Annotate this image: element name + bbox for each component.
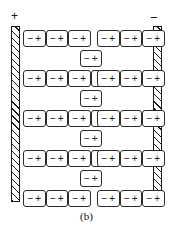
dipole-positive-charge: +	[154, 193, 160, 203]
dipole-cell-r0-left-0: −+	[23, 30, 46, 47]
dipole-positive-charge: +	[80, 153, 86, 163]
dipole-positive-charge: +	[132, 73, 138, 83]
dipole-cell-r3-right-1: −+	[120, 150, 143, 167]
dipole-cell-r0-right-1: −+	[120, 30, 143, 47]
dipole-negative-charge: −	[124, 153, 130, 163]
dipole-cell-r4-right-2: −+	[142, 190, 165, 207]
figure-canvas: + − −+−+−+−+−+−+−+−+−+−+−+−+−+−+−+−+−+−+…	[0, 0, 173, 234]
dipole-positive-charge: +	[92, 93, 98, 103]
dipole-positive-charge: +	[58, 73, 64, 83]
dipole-positive-charge: +	[132, 113, 138, 123]
dipole-positive-charge: +	[35, 193, 41, 203]
dipole-cell-r4-left-0: −+	[23, 190, 46, 207]
dipole-positive-charge: +	[35, 153, 41, 163]
dipole-negative-charge: −	[84, 173, 90, 183]
dipole-negative-charge: −	[27, 73, 33, 83]
dipole-positive-charge: +	[80, 33, 86, 43]
dipole-negative-charge: −	[124, 33, 130, 43]
dipole-negative-charge: −	[101, 193, 107, 203]
dipole-cell-r2-right-2: −+	[142, 110, 165, 127]
dipole-cell-bridge-1: −+	[80, 90, 103, 107]
dipole-cell-r2-left-0: −+	[23, 110, 46, 127]
dipole-negative-charge: −	[124, 193, 130, 203]
dipole-cell-r2-right-0: −+	[97, 110, 120, 127]
dipole-negative-charge: −	[27, 33, 33, 43]
dipole-positive-charge: +	[92, 53, 98, 63]
dipole-cell-r3-left-2: −+	[68, 150, 91, 167]
dipole-positive-charge: +	[58, 113, 64, 123]
dipole-positive-charge: +	[58, 193, 64, 203]
dipole-negative-charge: −	[72, 33, 78, 43]
dipole-positive-charge: +	[35, 113, 41, 123]
dipole-cell-r3-right-0: −+	[97, 150, 120, 167]
dipole-negative-charge: −	[84, 53, 90, 63]
dipole-negative-charge: −	[146, 33, 152, 43]
dipole-cell-r4-right-0: −+	[97, 190, 120, 207]
dipole-positive-charge: +	[154, 153, 160, 163]
dipole-positive-charge: +	[109, 73, 115, 83]
dipole-negative-charge: −	[84, 93, 90, 103]
dipole-cell-r1-left-2: −+	[68, 70, 91, 87]
dipole-positive-charge: +	[35, 33, 41, 43]
dipole-negative-charge: −	[27, 193, 33, 203]
dipole-cell-r0-right-2: −+	[142, 30, 165, 47]
dipole-cell-r4-right-1: −+	[120, 190, 143, 207]
dipole-cell-r2-left-1: −+	[46, 110, 69, 127]
dipole-cell-r2-left-2: −+	[68, 110, 91, 127]
dipole-positive-charge: +	[80, 113, 86, 123]
dipole-cell-bridge-0: −+	[80, 50, 103, 67]
dipole-positive-charge: +	[132, 33, 138, 43]
dipole-positive-charge: +	[154, 113, 160, 123]
dipole-positive-charge: +	[109, 113, 115, 123]
dipole-positive-charge: +	[132, 153, 138, 163]
dipole-positive-charge: +	[80, 193, 86, 203]
dipole-positive-charge: +	[92, 133, 98, 143]
dipole-negative-charge: −	[146, 193, 152, 203]
dipole-negative-charge: −	[124, 73, 130, 83]
dipole-negative-charge: −	[50, 193, 56, 203]
dipole-cell-r3-left-1: −+	[46, 150, 69, 167]
dipole-negative-charge: −	[72, 113, 78, 123]
dipole-cell-r1-left-1: −+	[46, 70, 69, 87]
dipole-cell-r3-right-2: −+	[142, 150, 165, 167]
dipole-negative-charge: −	[72, 153, 78, 163]
dipole-negative-charge: −	[27, 113, 33, 123]
dipole-cell-r0-left-2: −+	[68, 30, 91, 47]
dipole-negative-charge: −	[84, 133, 90, 143]
dipole-negative-charge: −	[72, 193, 78, 203]
dipole-cell-bridge-3: −+	[80, 170, 103, 187]
dipole-negative-charge: −	[27, 153, 33, 163]
dipole-negative-charge: −	[50, 153, 56, 163]
dipole-cell-r1-right-1: −+	[120, 70, 143, 87]
dipole-negative-charge: −	[101, 113, 107, 123]
dipole-negative-charge: −	[101, 73, 107, 83]
dipole-negative-charge: −	[146, 73, 152, 83]
dipole-positive-charge: +	[109, 153, 115, 163]
dipole-negative-charge: −	[50, 113, 56, 123]
dipole-cell-r4-left-2: −+	[68, 190, 91, 207]
dipole-cell-r0-right-0: −+	[97, 30, 120, 47]
dipole-positive-charge: +	[35, 73, 41, 83]
dipole-positive-charge: +	[154, 33, 160, 43]
dipole-negative-charge: −	[72, 73, 78, 83]
dipole-cell-r1-right-2: −+	[142, 70, 165, 87]
dipole-cell-r2-right-1: −+	[120, 110, 143, 127]
dipole-cell-r4-left-1: −+	[46, 190, 69, 207]
dipole-negative-charge: −	[146, 153, 152, 163]
dipole-negative-charge: −	[101, 153, 107, 163]
figure-caption: (b)	[0, 210, 173, 222]
dipole-positive-charge: +	[92, 173, 98, 183]
dipole-cell-r1-left-0: −+	[23, 70, 46, 87]
dipole-negative-charge: −	[50, 73, 56, 83]
dipole-cell-r1-right-0: −+	[97, 70, 120, 87]
dipole-cell-r3-left-0: −+	[23, 150, 46, 167]
dipole-cell-r0-left-1: −+	[46, 30, 69, 47]
dipole-lattice: −+−+−+−+−+−+−+−+−+−+−+−+−+−+−+−+−+−+−+−+…	[0, 0, 173, 234]
dipole-negative-charge: −	[124, 113, 130, 123]
dipole-positive-charge: +	[58, 153, 64, 163]
dipole-positive-charge: +	[109, 33, 115, 43]
dipole-positive-charge: +	[132, 193, 138, 203]
dipole-positive-charge: +	[109, 193, 115, 203]
dipole-positive-charge: +	[58, 33, 64, 43]
dipole-positive-charge: +	[154, 73, 160, 83]
